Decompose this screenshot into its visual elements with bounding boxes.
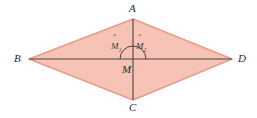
vertex-label-c: C (129, 102, 136, 113)
angle-label-m2: M2 (136, 42, 147, 53)
angle-m1-base: M (111, 42, 119, 51)
vertex-label-d: D (238, 53, 246, 64)
vertex-label-a: A (129, 3, 136, 14)
angle-m2-base: M (136, 42, 144, 51)
angle-label-m1: M1 (111, 42, 122, 53)
center-label-m: M (122, 64, 131, 75)
geometry-figure: A B C D M M1 M2 (0, 0, 257, 118)
vertex-label-b: B (14, 53, 21, 64)
